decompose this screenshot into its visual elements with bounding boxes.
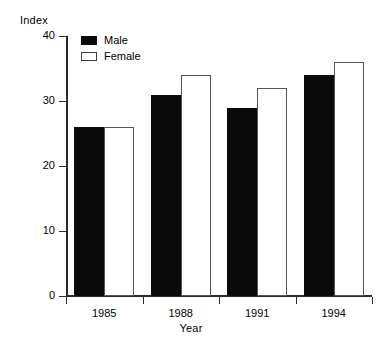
- x-tick-label: 1994: [304, 307, 364, 319]
- x-tick-mark: [143, 297, 144, 304]
- bar-chart: Index 010203040 1985198819911994 MaleFem…: [0, 0, 382, 347]
- y-tick-mark: [59, 296, 66, 297]
- x-tick-label: 1991: [227, 307, 287, 319]
- y-tick-label: 10: [21, 225, 55, 236]
- y-tick-label: 0: [21, 290, 55, 301]
- bar-male-1994: [304, 75, 334, 296]
- y-tick-mark: [59, 36, 66, 37]
- y-tick-mark: [59, 101, 66, 102]
- chart-legend: MaleFemale: [81, 33, 173, 65]
- bar-male-1991: [227, 108, 257, 297]
- legend-item-female: Female: [81, 49, 173, 63]
- bar-male-1985: [74, 127, 104, 296]
- y-axis-label: Index: [20, 14, 48, 26]
- bar-female-1988: [181, 75, 211, 296]
- bar-female-1994: [334, 62, 364, 296]
- bar-female-1985: [104, 127, 134, 296]
- x-tick-mark: [219, 297, 220, 304]
- x-tick-mark: [296, 297, 297, 304]
- y-tick-label: 20: [21, 160, 55, 171]
- bar-female-1991: [257, 88, 287, 296]
- y-tick-label: 30: [21, 95, 55, 106]
- legend-swatch-icon: [81, 36, 97, 45]
- x-tick-mark: [372, 297, 373, 304]
- x-tick-label: 1988: [151, 307, 211, 319]
- y-tick-mark: [59, 231, 66, 232]
- x-tick-label: 1985: [74, 307, 134, 319]
- y-tick-label: 40: [21, 30, 55, 41]
- legend-label: Female: [104, 51, 141, 62]
- legend-swatch-icon: [81, 52, 97, 61]
- legend-item-male: Male: [81, 33, 173, 47]
- y-tick-mark: [59, 166, 66, 167]
- x-axis-label: Year: [0, 322, 382, 334]
- x-tick-mark: [66, 297, 67, 304]
- bar-male-1988: [151, 95, 181, 297]
- y-axis-line: [66, 36, 68, 297]
- legend-label: Male: [104, 35, 128, 46]
